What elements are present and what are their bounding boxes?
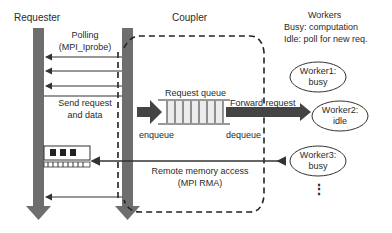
legend-busy: Busy: computation [284, 22, 358, 33]
requester-title: Requester [14, 12, 60, 23]
worker3-state: busy [290, 161, 346, 172]
request-queue-label: Request queue [165, 88, 226, 99]
more-workers-ellipsis: ⋮ [312, 184, 326, 195]
remote-memory-label: Remote memory access [140, 166, 260, 177]
worker2-state: idle [312, 116, 368, 127]
send-request-label: Send request [50, 98, 120, 109]
enqueue-arrow [137, 100, 162, 124]
and-data-label: and data [50, 110, 120, 121]
request-queue [158, 100, 230, 124]
worker1-state: busy [290, 77, 346, 88]
worker3-name: Worker3: [290, 150, 346, 161]
coupler-title: Coupler [172, 12, 207, 23]
legend-idle: Idle: poll for new req. [284, 34, 368, 45]
worker1-name: Worker1: [290, 66, 346, 77]
worker3: Worker3: busy [290, 150, 346, 172]
dequeue-label: dequeue [226, 130, 261, 141]
worker2: Worker2: idle [312, 105, 368, 127]
enqueue-label: enqueue [139, 130, 174, 141]
polling-api-label: (MPI_Iprobe) [54, 42, 116, 53]
remote-memory-api-label: (MPI RMA) [140, 178, 260, 189]
memory-module-icon [44, 146, 90, 167]
polling-arrows [44, 57, 122, 197]
polling-label: Polling [60, 30, 110, 41]
worker1: Worker1: busy [290, 66, 346, 88]
forward-request-label: Forward request [230, 98, 296, 109]
worker2-name: Worker2: [312, 105, 368, 116]
workers-title: Workers [308, 10, 341, 21]
